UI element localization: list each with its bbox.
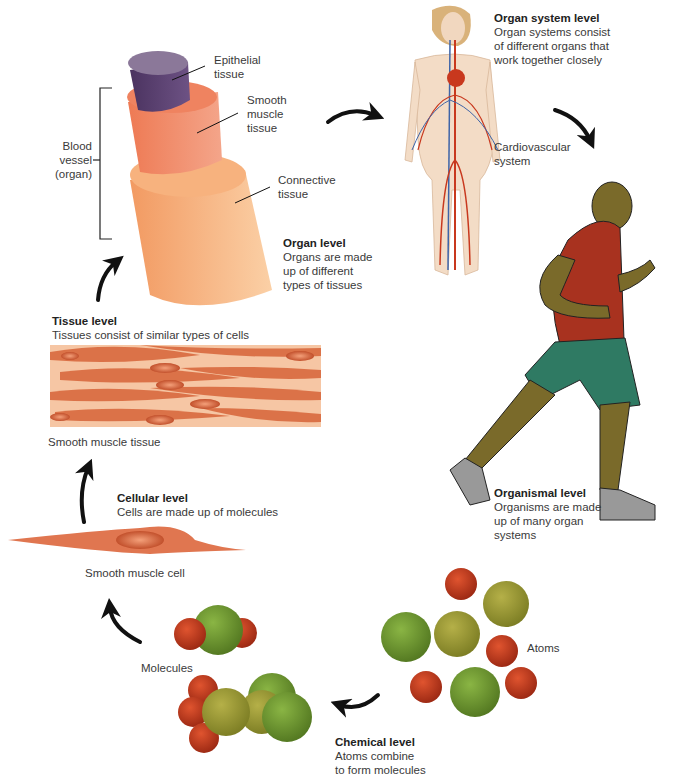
chemical-level-desc: Atoms combine xyxy=(335,749,426,763)
blood-vessel-illustration xyxy=(93,51,272,305)
organ-level-desc: up of different xyxy=(283,264,373,278)
arrow-system-to-organism xyxy=(555,110,590,140)
organismal-level-desc: systems xyxy=(494,528,601,542)
label-smooth-muscle-tissue-caption: Smooth muscle tissue xyxy=(48,435,161,449)
chemical-level-desc: to form molecules xyxy=(335,763,426,777)
organ-system-level-desc: Organ systems consist xyxy=(494,25,610,39)
label-line: tissue xyxy=(278,187,336,201)
levels-of-organization-artwork xyxy=(0,0,673,784)
label-line: tissue xyxy=(214,67,261,81)
label-line: Atoms xyxy=(527,641,560,655)
label-line: Epithelial xyxy=(214,53,261,67)
label-line: Blood xyxy=(52,139,92,153)
molecules-illustration xyxy=(174,605,312,753)
arrow-tissue-to-organ xyxy=(98,262,116,300)
label-epithelial-tissue: Epithelial tissue xyxy=(214,53,261,81)
organ-level-caption: Organ level Organs are made up of differ… xyxy=(283,236,373,292)
organ-system-level-desc: work together closely xyxy=(494,53,610,67)
cellular-level-caption: Cellular level Cells are made up of mole… xyxy=(117,491,278,519)
label-line: muscle xyxy=(247,107,287,121)
tissue-level-desc: Tissues consist of similar types of cell… xyxy=(52,328,249,342)
label-connective-tissue: Connective tissue xyxy=(278,173,336,201)
smooth-muscle-tissue-illustration xyxy=(50,345,321,427)
cardiovascular-figure xyxy=(405,6,500,275)
organ-level-desc: types of tissues xyxy=(283,278,373,292)
organ-system-level-desc: of different organs that xyxy=(494,39,610,53)
arrow-organ-to-system xyxy=(328,111,375,122)
label-line: Cardiovascular xyxy=(494,140,571,154)
label-cardiovascular-system: Cardiovascular system xyxy=(494,140,571,168)
smooth-muscle-cell-illustration xyxy=(8,527,246,555)
organismal-level-title: Organismal level xyxy=(494,486,601,500)
chemical-level-title: Chemical level xyxy=(335,735,426,749)
label-atoms: Atoms xyxy=(527,641,560,655)
arrow-atoms-to-molecules xyxy=(340,695,378,707)
tissue-level-caption: Tissue level Tissues consist of similar … xyxy=(52,314,249,342)
organ-system-level-title: Organ system level xyxy=(494,11,610,25)
organismal-level-desc: Organisms are made xyxy=(494,500,601,514)
label-smooth-muscle-cell: Smooth muscle cell xyxy=(85,566,185,580)
tissue-level-title: Tissue level xyxy=(52,314,249,328)
label-line: Smooth muscle tissue xyxy=(48,435,161,449)
atoms-illustration xyxy=(381,568,537,717)
label-line: vessel xyxy=(52,153,92,167)
label-line: Connective xyxy=(278,173,336,187)
organ-level-desc: Organs are made xyxy=(283,250,373,264)
label-line: system xyxy=(494,154,571,168)
cellular-level-desc: Cells are made up of molecules xyxy=(117,505,278,519)
chemical-level-caption: Chemical level Atoms combine to form mol… xyxy=(335,735,426,777)
label-molecules: Molecules xyxy=(141,661,193,675)
organismal-level-desc: up of many organ xyxy=(494,514,601,528)
arrow-molecules-to-cell xyxy=(110,608,140,642)
arrow-cell-to-tissue xyxy=(82,468,88,522)
organ-level-title: Organ level xyxy=(283,236,373,250)
organ-system-level-caption: Organ system level Organ systems consist… xyxy=(494,11,610,67)
organismal-level-caption: Organismal level Organisms are made up o… xyxy=(494,486,601,542)
label-blood-vessel: Blood vessel (organ) xyxy=(52,139,92,181)
cellular-level-title: Cellular level xyxy=(117,491,278,505)
label-line: Smooth xyxy=(247,93,287,107)
label-smooth-muscle-tissue: Smooth muscle tissue xyxy=(247,93,287,135)
label-line: Smooth muscle cell xyxy=(85,566,185,580)
runner-figure xyxy=(450,182,655,520)
label-line: Molecules xyxy=(141,661,193,675)
label-line: (organ) xyxy=(52,167,92,181)
label-line: tissue xyxy=(247,121,287,135)
